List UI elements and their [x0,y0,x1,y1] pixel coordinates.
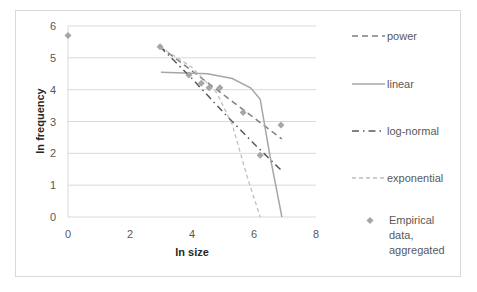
empirical-data-point [65,32,72,39]
legend-marker [367,217,374,224]
empirical-data-point [240,109,247,116]
x-tick-label: 4 [189,228,195,240]
empirical-data-point [257,152,264,159]
y-tick-label: 4 [50,84,56,96]
legend-label: exponential [387,172,443,184]
empirical-data-point [277,122,284,129]
legend-label: data, [389,229,413,241]
y-tick-label: 6 [50,20,56,32]
chart-canvas: 0123456 02468 ln size ln frequency power… [0,0,477,292]
x-tick-label: 6 [251,228,257,240]
y-axis-ticks: 0123456 [50,20,56,223]
legend-label: aggregated [389,244,445,256]
y-tick-label: 2 [50,147,56,159]
plot-series [65,32,285,217]
legend-label: log-normal [387,125,439,137]
y-axis-title: ln frequency [34,87,46,153]
legend: powerlinearlog-normalexponentialEmpirica… [352,30,445,256]
linear-fit-line [161,72,282,217]
x-tick-label: 2 [127,228,133,240]
gridlines [68,26,316,217]
x-axis-ticks: 02468 [65,228,319,240]
x-tick-label: 0 [65,228,71,240]
x-axis-title: ln size [175,246,209,258]
legend-label: linear [387,78,414,90]
x-tick-label: 8 [313,228,319,240]
log-normal-fit-line [160,47,282,171]
legend-label: Empirical [389,214,434,226]
y-tick-label: 0 [50,211,56,223]
y-tick-label: 3 [50,116,56,128]
y-tick-label: 5 [50,52,56,64]
legend-label: power [387,30,417,42]
power-fit-line [160,47,282,139]
y-tick-label: 1 [50,179,56,191]
